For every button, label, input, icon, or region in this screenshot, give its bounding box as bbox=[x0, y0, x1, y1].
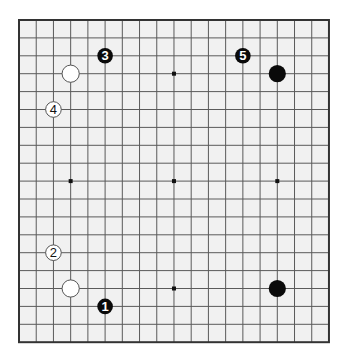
move-number-label: 3 bbox=[101, 48, 108, 63]
black-stone-move-3: 3 bbox=[97, 48, 113, 64]
white-stone-move-2: 2 bbox=[46, 245, 62, 261]
move-number-label: 2 bbox=[50, 245, 57, 260]
go-board: 12345 bbox=[0, 0, 347, 363]
move-number-label: 1 bbox=[101, 299, 108, 314]
black-stone-icon bbox=[269, 280, 286, 297]
star-point-icon bbox=[172, 287, 176, 291]
black-stone-move-5: 5 bbox=[235, 48, 251, 64]
white-stone bbox=[62, 65, 79, 82]
black-stone bbox=[269, 280, 286, 297]
move-number-label: 5 bbox=[239, 48, 246, 63]
white-stone-icon bbox=[62, 65, 79, 82]
star-point-icon bbox=[69, 179, 73, 183]
black-stone-move-1: 1 bbox=[97, 299, 113, 315]
star-point-icon bbox=[172, 72, 176, 76]
move-number-label: 4 bbox=[50, 102, 57, 117]
white-stone bbox=[62, 280, 79, 297]
black-stone-icon bbox=[269, 65, 286, 82]
black-stone bbox=[269, 65, 286, 82]
white-stone-move-4: 4 bbox=[46, 102, 62, 118]
star-point-icon bbox=[275, 179, 279, 183]
star-point-icon bbox=[172, 179, 176, 183]
white-stone-icon bbox=[62, 280, 79, 297]
go-board-diagram: 12345 bbox=[0, 0, 347, 363]
